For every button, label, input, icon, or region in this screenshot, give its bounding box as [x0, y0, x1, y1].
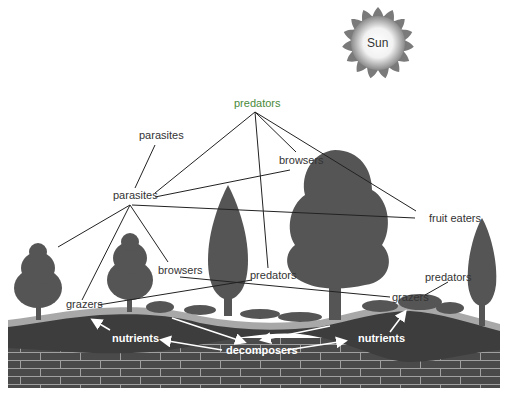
label-decomposers: decomposers: [226, 344, 298, 356]
label-nutrients-left: nutrients: [112, 332, 159, 344]
label-browsers-upper: browsers: [279, 154, 324, 166]
label-predators-top: predators: [234, 97, 280, 109]
sun-label: Sun: [367, 37, 388, 49]
label-fruit-eaters: fruit eaters: [429, 212, 481, 224]
label-predators-mid: predators: [250, 269, 296, 281]
label-parasites-upper: parasites: [139, 129, 184, 141]
label-grazers-left: grazers: [66, 298, 103, 310]
label-predators-right: predators: [425, 271, 471, 283]
label-browsers-lower: browsers: [158, 264, 203, 276]
label-parasites-mid: parasites: [113, 189, 158, 201]
label-nutrients-right: nutrients: [358, 332, 405, 344]
label-grazers-right: grazers: [392, 291, 429, 303]
food-web-diagram: [0, 0, 510, 396]
